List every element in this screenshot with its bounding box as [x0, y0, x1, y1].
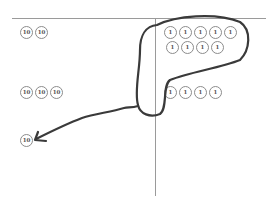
place-value-diagram: 10 10 10 10 10 10 1 1 1 1 1 1 1 1 1 1 1 … [0, 0, 266, 214]
grouping-loop [137, 16, 249, 115]
ink-annotations [0, 0, 266, 214]
regroup-arrow [36, 106, 138, 139]
